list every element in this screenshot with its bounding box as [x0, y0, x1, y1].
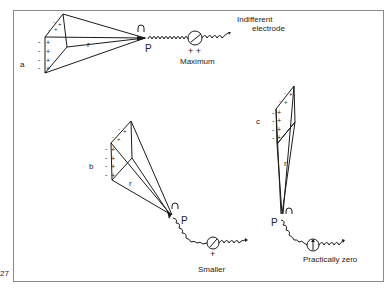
svg-text:-: - — [38, 47, 41, 54]
panel-c-reading: Practically zero — [303, 255, 358, 264]
panel-b-label: b — [89, 162, 94, 171]
panel-a-indifferent-wire — [202, 33, 228, 38]
svg-text:-: - — [105, 162, 108, 169]
panel-c-label: c — [256, 117, 260, 126]
indifferent-electrode-label-line1: Indifferent — [237, 15, 273, 24]
svg-text:+: + — [46, 57, 50, 64]
svg-text:-: - — [105, 171, 108, 178]
panel-c-indifferent-wire — [319, 240, 343, 245]
svg-text:-: - — [105, 154, 108, 161]
svg-text:+: + — [277, 126, 281, 133]
svg-text:+: + — [111, 146, 115, 153]
svg-text:+: + — [117, 136, 121, 142]
diagram-canvas: -+ -+ -+ -+ -+ -+ r P + + Maximum a Indi… — [0, 0, 391, 292]
svg-text:+: + — [123, 128, 127, 134]
svg-text:-: - — [48, 27, 50, 33]
svg-text:-: - — [112, 134, 114, 140]
svg-text:-: - — [279, 98, 281, 104]
panel-a-reading: Maximum — [180, 57, 215, 66]
panel-a-radius-label: r — [87, 40, 90, 49]
panel-c-point-label: P — [271, 217, 278, 228]
svg-text:-: - — [38, 64, 41, 71]
panel-b-meter-sign: + — [210, 249, 215, 259]
panel-b-indifferent-wire — [219, 240, 245, 243]
panel-a-label: a — [20, 60, 25, 69]
svg-text:+: + — [277, 109, 281, 116]
panel-b-ohm-icon — [172, 203, 178, 209]
svg-text:-: - — [272, 126, 275, 133]
page-number: 27 — [0, 269, 9, 278]
panel-b: -+ -+ -+ -+ -+ -+ r P + Smaller b — [89, 121, 248, 274]
svg-text:+: + — [289, 91, 293, 97]
svg-text:-: - — [118, 126, 120, 132]
panel-c-lead-wire — [281, 220, 307, 245]
panel-a: -+ -+ -+ -+ -+ -+ r P + + Maximum a — [20, 14, 231, 73]
svg-text:-: - — [38, 38, 41, 45]
svg-text:+: + — [46, 39, 50, 46]
panel-a-point-label: P — [145, 43, 152, 54]
panel-a-charges: -+ -+ -+ -+ -+ -+ — [38, 19, 62, 72]
panel-b-charges: -+ -+ -+ -+ -+ -+ — [105, 126, 127, 179]
svg-text:+: + — [277, 134, 281, 141]
svg-text:-: - — [38, 56, 41, 63]
panel-b-reading: Smaller — [198, 265, 225, 274]
svg-text:+: + — [58, 21, 62, 27]
svg-text:+: + — [46, 65, 50, 72]
svg-text:-: - — [105, 145, 108, 152]
panel-b-radius-label: r — [129, 179, 132, 188]
svg-text:-: - — [272, 109, 275, 116]
svg-text:-: - — [53, 19, 55, 25]
svg-text:+: + — [277, 117, 281, 124]
panel-c-radius-label: r — [284, 159, 287, 168]
panel-a-galvanometer-icon — [188, 31, 202, 45]
panel-a-ohm-icon — [138, 25, 144, 32]
panel-c-ohm-icon — [286, 208, 292, 214]
svg-text:+: + — [284, 99, 288, 105]
panel-b-point-label: P — [181, 215, 188, 226]
svg-text:-: - — [272, 117, 275, 124]
svg-text:-: - — [272, 134, 275, 141]
indifferent-electrode-label-line2: electrode — [252, 24, 285, 33]
panel-a-lead-wire — [148, 37, 188, 40]
svg-text:-: - — [284, 90, 286, 96]
svg-text:+: + — [111, 163, 115, 170]
panel-c: -+ -+ -+ -+ -+ -+ r P Practically zero c — [256, 86, 358, 264]
svg-text:+: + — [46, 48, 50, 55]
panel-b-lead-wire — [173, 218, 207, 244]
svg-text:+: + — [111, 172, 115, 179]
svg-text:+: + — [111, 155, 115, 162]
panel-a-meter-sign: + + — [188, 46, 201, 56]
